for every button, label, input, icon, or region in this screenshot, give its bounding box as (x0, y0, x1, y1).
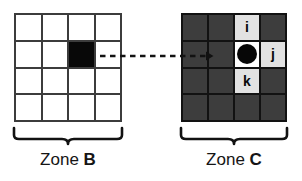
zone-c-cell-r1c2 (209, 15, 233, 40)
zone-c-cell-r4c2 (209, 95, 233, 120)
zone-c-cell-r2c3-marker (235, 42, 259, 67)
zone-b-bracket (12, 126, 124, 146)
zone-c-cell-r1c3-label-i: i (235, 15, 259, 40)
zone-c-caption-word: Zone (206, 150, 245, 169)
zone-c-cell-r3c3-label-k: k (235, 69, 259, 94)
zone-b-cell-r4c2 (43, 95, 68, 120)
zone-c-cell-r4c4 (261, 95, 285, 120)
zone-c-cell-r1c1 (183, 15, 207, 40)
zone-c-cell-r3c1 (183, 69, 207, 94)
target-dot-icon (237, 44, 257, 64)
zone-c-cell-r3c2 (209, 69, 233, 94)
zone-b-caption-letter: B (84, 150, 96, 169)
zone-c-label-k: k (243, 74, 251, 88)
zone-c-grid: i j k (181, 13, 287, 122)
zone-b-cell-r2c2 (43, 42, 68, 67)
zone-c-cell-r1c4 (261, 15, 285, 40)
zone-c-cell-r2c4-label-j: j (261, 42, 285, 67)
zone-b-cell-r2c3-filled (69, 42, 94, 67)
zone-b-cell-r3c4 (96, 69, 121, 94)
zone-b-cell-r3c2 (43, 69, 68, 94)
zone-c-caption: Zone C (179, 150, 289, 170)
zone-b-cell-r4c3 (69, 95, 94, 120)
diagram-canvas: i j k Zone B Zone (0, 0, 302, 181)
zone-b-cell-r1c2 (43, 15, 68, 40)
zone-c-caption-letter: C (250, 150, 262, 169)
zone-c-cell-r3c4 (261, 69, 285, 94)
zone-c-cell-r4c1 (183, 95, 207, 120)
zone-b-caption-word: Zone (40, 150, 79, 169)
zone-c-label-j: j (271, 47, 275, 61)
zone-b-cell-r4c4 (96, 95, 121, 120)
zone-b-caption: Zone B (12, 150, 124, 170)
zone-b-cell-r3c1 (16, 69, 41, 94)
zone-b-cell-r3c3 (69, 69, 94, 94)
zone-b-cell-r1c3 (69, 15, 94, 40)
zone-c-label-i: i (245, 20, 249, 34)
zone-c-cell-r4c3 (235, 95, 259, 120)
zone-b-cell-r1c4 (96, 15, 121, 40)
zone-b-grid (14, 13, 122, 122)
zone-b-cell-r4c1 (16, 95, 41, 120)
zone-b-cell-r1c1 (16, 15, 41, 40)
zone-c-bracket (179, 126, 289, 146)
zone-b-cell-r2c1 (16, 42, 41, 67)
dashed-arrow-connector (100, 49, 218, 63)
